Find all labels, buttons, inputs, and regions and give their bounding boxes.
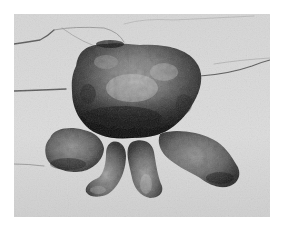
specimen-photo bbox=[14, 14, 270, 217]
specimen-illustration bbox=[14, 14, 270, 217]
film-grain bbox=[14, 14, 270, 217]
